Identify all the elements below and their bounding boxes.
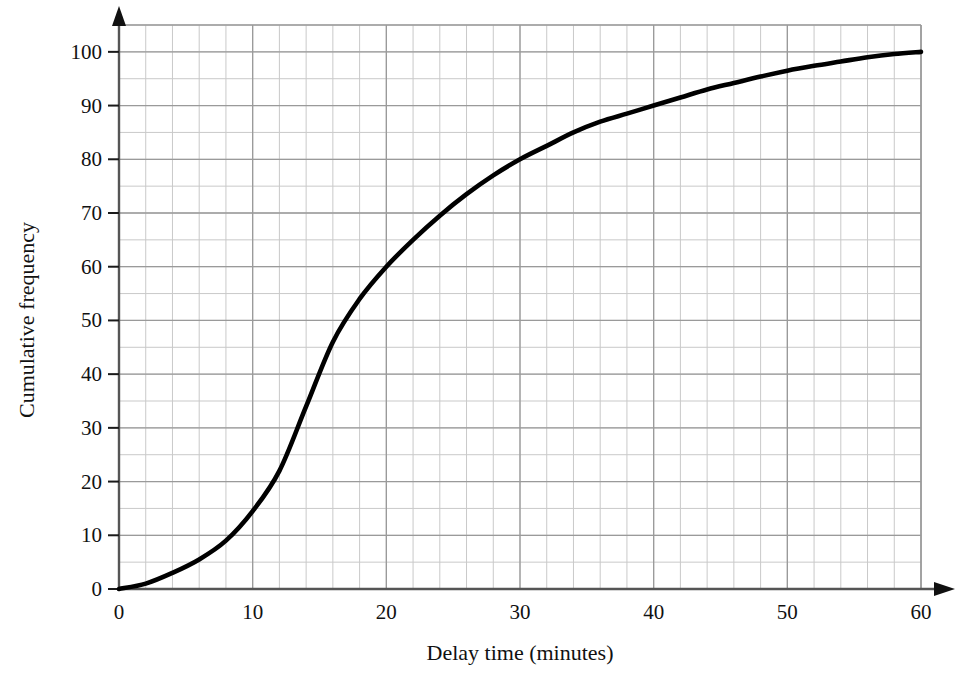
x-tick-label: 60 (911, 600, 932, 624)
y-tick-label: 80 (81, 147, 102, 171)
x-axis-title: Delay time (minutes) (427, 640, 614, 665)
y-tick-label: 50 (81, 308, 102, 332)
axes (112, 6, 955, 596)
x-tick-label: 50 (777, 600, 798, 624)
y-tick-label: 40 (81, 362, 102, 386)
x-tick-label: 0 (114, 600, 125, 624)
cumulative-frequency-chart: 0102030405060708090100 0102030405060 Del… (0, 0, 968, 687)
x-axis-tick-labels: 0102030405060 (114, 600, 932, 624)
y-tick-label: 30 (81, 416, 102, 440)
y-tick-label: 0 (92, 577, 103, 601)
x-tick-label: 30 (510, 600, 531, 624)
y-tick-label: 90 (81, 94, 102, 118)
major-gridlines (119, 25, 921, 589)
y-axis-arrowhead (112, 6, 126, 26)
y-tick-label: 10 (81, 523, 102, 547)
chart-canvas: 0102030405060708090100 0102030405060 Del… (0, 0, 968, 687)
y-axis-title: Cumulative frequency (14, 222, 39, 418)
y-tick-label: 100 (71, 40, 103, 64)
x-tick-label: 20 (376, 600, 397, 624)
y-tick-label: 60 (81, 255, 102, 279)
x-axis-arrowhead (934, 582, 955, 596)
x-tick-label: 40 (643, 600, 664, 624)
y-tick-label: 20 (81, 470, 102, 494)
y-axis-ticks (108, 52, 119, 589)
y-tick-label: 70 (81, 201, 102, 225)
y-axis-tick-labels: 0102030405060708090100 (71, 40, 103, 601)
x-tick-label: 10 (242, 600, 263, 624)
